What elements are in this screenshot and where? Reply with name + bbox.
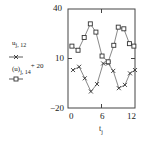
square-marker [106, 60, 110, 64]
square-marker [100, 54, 104, 58]
y-tick-minus20: −20 [50, 103, 64, 113]
square-marker [88, 22, 92, 26]
square-marker [132, 44, 136, 48]
x-axis-sub: j [101, 129, 103, 135]
x-marker [83, 76, 87, 80]
legend2-square-icon [14, 77, 18, 81]
legend2-var: (u) [12, 65, 20, 73]
square-marker [122, 27, 126, 31]
square-marker [82, 36, 86, 40]
legend1-sub: j, 12 [16, 42, 27, 48]
x-marker [117, 86, 121, 90]
y-tick-40: 40 [53, 3, 62, 13]
x-tick-0: 0 [69, 111, 74, 121]
square-marker [70, 44, 74, 48]
y-tick-10: 10 [55, 53, 64, 63]
square-marker [76, 48, 80, 52]
square-marker [112, 43, 116, 47]
x-marker [77, 65, 81, 69]
x-marker [123, 83, 127, 87]
square-marker [127, 42, 131, 46]
series-line-1 [73, 63, 135, 91]
plot-frame [68, 9, 135, 108]
legend2-sup: + 20 [31, 62, 44, 70]
x-marker [95, 82, 99, 86]
x-marker [71, 68, 75, 72]
legend-label-series1: uj, 12 [12, 39, 26, 48]
legend2-sub: j, 14 [20, 69, 31, 75]
x-marker [89, 90, 93, 94]
x-tick-6: 6 [100, 111, 105, 121]
square-marker [94, 30, 98, 34]
x-tick-12: 12 [127, 111, 136, 121]
square-marker [116, 25, 120, 29]
x-marker [111, 69, 115, 73]
legend-label-series2: (u)j, 14+ 20 [12, 62, 44, 75]
x-marker [128, 71, 132, 75]
x-axis-label: tj [99, 124, 103, 135]
